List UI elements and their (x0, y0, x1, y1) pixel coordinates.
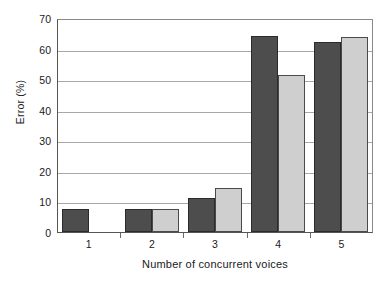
bar-group (58, 20, 121, 232)
y-axis-tick-label: 10 (39, 197, 51, 207)
bar-chart: Error (%) 010203040506070 12345 Number o… (0, 0, 389, 282)
x-axis-tick-label: 2 (120, 238, 183, 250)
bar-light-5 (341, 37, 368, 232)
x-axis-title: Number of concurrent voices (57, 258, 373, 270)
bar-dark-1 (62, 209, 89, 232)
bar-group (184, 20, 247, 232)
plot-area (57, 19, 373, 233)
bar-dark-4 (251, 36, 278, 232)
y-axis-tick-label: 30 (39, 136, 51, 146)
bar-group (121, 20, 184, 232)
x-axis-tick-label: 5 (310, 238, 373, 250)
y-axis-tick-labels: 010203040506070 (24, 19, 54, 233)
bar-dark-3 (188, 198, 215, 232)
x-axis-tick-labels: 12345 (57, 238, 373, 250)
y-axis-tick-label: 0 (45, 228, 51, 238)
x-axis-tick-label: 4 (247, 238, 310, 250)
y-axis-tick-label: 50 (39, 75, 51, 85)
y-axis-tick-label: 40 (39, 106, 51, 116)
bars-layer (58, 20, 372, 232)
y-axis-tick-label: 60 (39, 45, 51, 55)
bar-dark-2 (125, 209, 152, 232)
bar-light-4 (278, 75, 305, 232)
x-axis-tick-label: 1 (57, 238, 120, 250)
bar-group (309, 20, 372, 232)
y-axis-tick-label: 70 (39, 14, 51, 24)
bar-dark-5 (314, 42, 341, 232)
y-axis-tick-label: 20 (39, 167, 51, 177)
bar-group (246, 20, 309, 232)
x-axis-tick-label: 3 (183, 238, 246, 250)
bar-light-2 (152, 209, 179, 232)
bar-light-3 (215, 188, 242, 232)
